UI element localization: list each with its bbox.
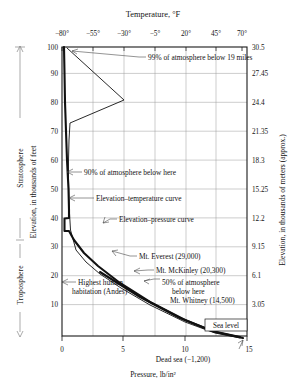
annotation-dead-sea-label: Dead sea (−1,200) bbox=[156, 355, 211, 364]
elev-m-tick-21-35: 21.35 bbox=[252, 128, 269, 136]
annotation-99-percent: 99% of atmosphere below 19 miles bbox=[72, 49, 253, 62]
sea-level-marker: Sea level bbox=[205, 319, 247, 331]
annotation-highest-human-habitation-line1: Highest human bbox=[78, 278, 123, 287]
annotation-mt-everest-label: Mt. Everest (29,000) bbox=[139, 252, 201, 261]
elev-ft-tick-40: 40 bbox=[51, 215, 59, 223]
pressure-tick-0: 0 bbox=[60, 346, 64, 354]
annotation-50-percent: 50% of atmosphere below here bbox=[144, 278, 220, 296]
elev-m-tick-18-3: 18.3 bbox=[252, 157, 265, 165]
temp-tick-2: −30° bbox=[117, 30, 131, 38]
annotation-50-percent-line2: below here bbox=[172, 287, 205, 296]
zone-label-stratosphere: Stratosphere bbox=[16, 148, 25, 188]
temp-tick-5: 45° bbox=[211, 30, 221, 38]
elev-ft-tick-60: 60 bbox=[51, 157, 59, 165]
elev-m-tick-3-05: 3.05 bbox=[252, 301, 265, 309]
top-axis-title: Temperature, °F bbox=[126, 10, 181, 19]
annotation-temperature-curve-label: Elevation–temperature curve bbox=[96, 194, 182, 203]
elev-ft-tick-80: 80 bbox=[51, 99, 59, 107]
elev-m-tick-30-5: 30.5 bbox=[252, 44, 265, 52]
elev-m-tick-12-2: 12.2 bbox=[252, 215, 265, 223]
annotation-highest-human-habitation: Highest human habitation (Andes) bbox=[62, 278, 128, 296]
temp-tick-4: 20° bbox=[181, 30, 191, 38]
right-axis-title: Elevation, in thousands of meters (appro… bbox=[278, 134, 287, 266]
annotation-50-percent-line1: 50% of atmosphere bbox=[162, 278, 220, 287]
annotation-temperature-curve: Elevation–temperature curve bbox=[69, 194, 182, 203]
temp-tick-0: −80° bbox=[55, 30, 69, 38]
temperature-tick-marks bbox=[62, 47, 242, 51]
annotation-99-percent-label: 99% of atmosphere below 19 miles bbox=[148, 53, 253, 62]
elevation-meters-tick-labels: 30.5 27.45 24.4 21.35 18.3 15.25 12.2 9.… bbox=[252, 44, 269, 310]
elevation-atmosphere-chart: Temperature, °F −80° −55° −30° −5° 20° 4… bbox=[0, 0, 307, 392]
elev-ft-tick-30: 30 bbox=[51, 243, 59, 251]
temp-tick-6: 70° bbox=[237, 30, 247, 38]
elev-ft-tick-100: 100 bbox=[47, 44, 58, 52]
pressure-tick-15: 15 bbox=[245, 346, 253, 354]
temp-tick-1: −55° bbox=[86, 30, 100, 38]
elev-m-tick-6-1: 6.1 bbox=[252, 272, 261, 280]
annotation-mt-mckinley-label: Mt. McKinley (20,300) bbox=[156, 266, 226, 275]
elev-m-tick-15-25: 15.25 bbox=[252, 186, 269, 194]
annotation-highest-human-habitation-line2: habitation (Andes) bbox=[72, 287, 128, 296]
elev-m-tick-24-4: 24.4 bbox=[252, 99, 265, 107]
elev-ft-tick-90: 90 bbox=[51, 70, 59, 78]
elev-ft-tick-70: 70 bbox=[51, 128, 59, 136]
elev-ft-tick-20: 20 bbox=[51, 272, 59, 280]
bottom-axis-title: Pressure, lb/in² bbox=[130, 370, 176, 379]
pressure-tick-10: 10 bbox=[181, 346, 189, 354]
elev-m-tick-9-15: 9.15 bbox=[252, 243, 265, 251]
annotation-pressure-curve: Elevation–pressure curve bbox=[103, 215, 195, 224]
pressure-tick-labels: 0 5 10 15 bbox=[60, 346, 253, 354]
annotation-90-percent-label: 90% of atmosphere below here bbox=[84, 168, 177, 177]
annotation-pressure-curve-label: Elevation–pressure curve bbox=[119, 215, 195, 224]
pressure-tick-marks bbox=[62, 336, 247, 341]
pressure-tick-5: 5 bbox=[121, 346, 125, 354]
sea-level-label: Sea level bbox=[213, 322, 239, 330]
elev-ft-tick-50: 50 bbox=[51, 186, 59, 194]
temperature-tick-labels: −80° −55° −30° −5° 20° 45° 70° bbox=[55, 30, 247, 38]
temp-tick-3: −5° bbox=[150, 30, 161, 38]
annotation-mt-everest: Mt. Everest (29,000) bbox=[112, 250, 201, 261]
annotation-mt-mckinley: Mt. McKinley (20,300) bbox=[134, 266, 226, 275]
annotation-mt-whitney-label: Mt. Whitney (14,500) bbox=[170, 296, 235, 305]
annotation-90-percent: 90% of atmosphere below here bbox=[67, 168, 177, 177]
left-axis-title: Elevation, in thousands of feet bbox=[29, 145, 38, 238]
zone-label-troposphere: Troposphere bbox=[16, 265, 25, 305]
annotation-dead-sea: Dead sea (−1,200) bbox=[156, 340, 243, 364]
atmosphere-zone-brackets: Stratosphere Troposphere bbox=[15, 46, 25, 337]
elev-m-tick-27-45: 27.45 bbox=[252, 70, 269, 78]
elevation-feet-tick-labels: 100 90 80 70 60 50 40 30 20 10 bbox=[47, 44, 58, 310]
elev-ft-tick-10: 10 bbox=[51, 301, 59, 309]
